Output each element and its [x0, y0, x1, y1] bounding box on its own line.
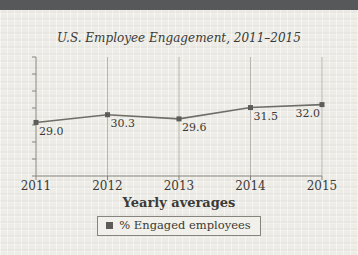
- x-axis-title: Yearly averages: [0, 195, 358, 210]
- data-point-marker: [320, 102, 325, 107]
- x-tick-label: 2012: [92, 179, 123, 193]
- value-label: 30.3: [111, 117, 136, 130]
- value-label: 29.6: [182, 121, 207, 134]
- data-point-marker: [34, 120, 39, 125]
- legend-box: % Engaged employees: [97, 216, 260, 236]
- chart-title: U.S. Employee Engagement, 2011–2015: [0, 31, 358, 45]
- x-tick-label: 2015: [307, 179, 338, 193]
- line-chart: 29.030.329.631.532.020112012201320142015: [0, 50, 358, 195]
- legend: % Engaged employees: [0, 216, 358, 236]
- value-label: 32.0: [296, 107, 321, 120]
- data-point-marker: [105, 112, 110, 117]
- legend-swatch-icon: [106, 222, 113, 229]
- data-point-marker: [248, 105, 253, 110]
- value-label: 29.0: [39, 125, 64, 138]
- value-label: 31.5: [254, 110, 279, 123]
- x-tick-label: 2011: [21, 179, 52, 193]
- legend-label: % Engaged employees: [119, 219, 250, 232]
- header-bar: [0, 0, 358, 10]
- x-tick-label: 2014: [235, 179, 266, 193]
- data-point-marker: [177, 116, 182, 121]
- x-tick-label: 2013: [164, 179, 195, 193]
